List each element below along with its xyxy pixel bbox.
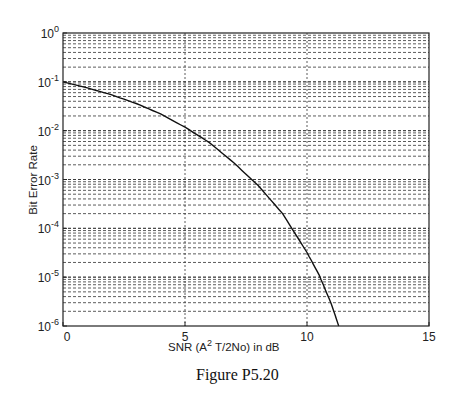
grid-lines — [63, 33, 429, 326]
y-axis-label: Bit Error Rate — [27, 145, 39, 215]
y-tick-label: 10-3 — [38, 171, 59, 188]
y-tick-label: 10-5 — [38, 268, 59, 285]
x-axis-label: SNR (A2 T/2No) in dB — [168, 338, 280, 353]
y-tick-label: 10-1 — [38, 73, 59, 90]
y-tick-label: 10-6 — [38, 317, 59, 334]
x-tick-label: 15 — [422, 330, 436, 344]
figure-caption: Figure P5.20 — [196, 366, 279, 384]
y-tick-label: 10-2 — [38, 122, 59, 139]
y-tick-label: 100 — [41, 24, 59, 41]
ber-chart: 10010-110-210-310-410-510-6 051015 Bit E… — [0, 0, 457, 360]
ber-curve — [63, 82, 339, 326]
x-tick-label: 0 — [64, 330, 71, 344]
x-tick-label: 10 — [300, 330, 314, 344]
y-tick-label: 10-4 — [38, 219, 59, 236]
